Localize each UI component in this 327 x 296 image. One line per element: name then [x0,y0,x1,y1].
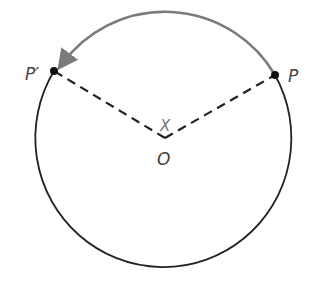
rotation-diagram: P P′ O X [0,0,327,296]
label-angle-x: X [159,117,171,135]
label-center-o: O [157,149,170,169]
point-p [271,71,279,79]
label-p-prime: P′ [25,64,39,84]
circle-arc [35,71,291,267]
label-p: P [288,66,299,86]
radius-op-prime [54,71,165,138]
point-p-prime [50,67,58,75]
rotation-arrow [62,12,275,75]
radius-op [165,75,275,138]
